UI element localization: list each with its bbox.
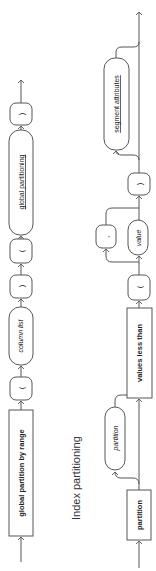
partition-keyword: partition [135, 500, 144, 530]
values-less-than-keyword: values less than [135, 324, 144, 382]
keyword-label: global partition by range [17, 429, 26, 517]
partition-name-label[interactable]: partition [112, 425, 120, 451]
comma-separator: , [102, 236, 111, 238]
close-paren: ) [17, 284, 26, 287]
value-label[interactable]: value [135, 230, 142, 247]
open-paren: ( [17, 386, 26, 389]
section-title: Index partitioning [70, 436, 82, 520]
open-paren: ( [135, 285, 144, 288]
diagram-index-partitioning: partition partition values less than ( ,… [96, 12, 152, 568]
close-paren: ) [135, 182, 144, 185]
segment-attributes-link[interactable]: segment attributes [113, 75, 121, 133]
open-paren: ( [17, 249, 26, 252]
global-partitioning-link[interactable]: global partitioning [18, 154, 26, 209]
close-paren: ) [17, 112, 26, 115]
diagram-global-partition-by-range: global partition by range ( column list … [9, 80, 33, 562]
syntax-diagram: global partition by range ( column list … [0, 0, 156, 571]
column-list-label[interactable]: column list [17, 318, 24, 352]
